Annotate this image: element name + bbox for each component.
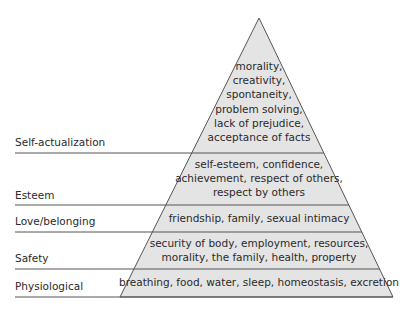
maslow-pyramid-diagram: Self-actualization Esteem Love/belonging…	[0, 0, 408, 313]
label-safety: Safety	[15, 252, 49, 264]
label-love-belonging: Love/belonging	[15, 215, 95, 227]
svg-text:lack of prejudice,: lack of prejudice,	[214, 117, 304, 129]
svg-text:problem solving,: problem solving,	[215, 103, 302, 115]
label-self-actualization: Self-actualization	[15, 136, 105, 148]
svg-text:respect by others: respect by others	[213, 186, 305, 198]
level-content-physiological: breathing, food, water, sleep, homeostas…	[119, 276, 399, 288]
svg-text:security of body, employment,: security of body, employment, resources,	[150, 237, 369, 249]
level-content-love-belonging: friendship, family, sexual intimacy	[169, 212, 350, 224]
svg-text:achievement, respect of others: achievement, respect of others,	[175, 172, 343, 184]
svg-text:self-esteem, confidence,: self-esteem, confidence,	[195, 158, 323, 170]
svg-text:acceptance of facts: acceptance of facts	[208, 131, 311, 143]
svg-text:spontaneity,: spontaneity,	[226, 88, 291, 100]
svg-text:friendship, family, sexual int: friendship, family, sexual intimacy	[169, 212, 350, 224]
label-esteem: Esteem	[15, 189, 54, 201]
svg-text:morality, the family, health,: morality, the family, health, property	[162, 251, 357, 263]
svg-text:morality,: morality,	[236, 60, 283, 72]
label-physiological: Physiological	[15, 280, 83, 292]
svg-text:breathing, food, water, sleep,: breathing, food, water, sleep, homeostas…	[119, 276, 399, 288]
svg-text:creativity,: creativity,	[233, 74, 286, 86]
